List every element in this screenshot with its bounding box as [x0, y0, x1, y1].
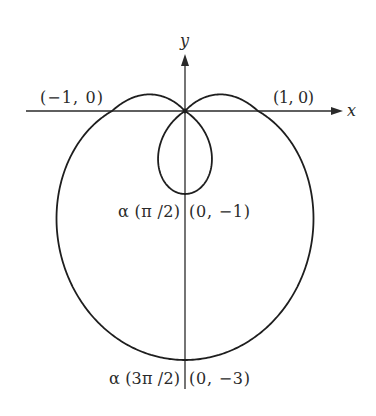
point-label-1-0: (1, 0) [273, 88, 314, 107]
point-label-0-neg1: (0, −1) [189, 202, 250, 221]
point-label-neg1-0: (−1, 0) [40, 88, 103, 107]
x-axis-label: x [347, 101, 356, 120]
y-axis-arrowhead [181, 54, 189, 66]
origin-point [183, 109, 188, 114]
param-label-3pi-over-2: α (3π /2) [109, 369, 180, 388]
param-label-pi-over-2: α (π /2) [118, 202, 180, 221]
point-label-0-neg3: (0, −3) [189, 369, 250, 388]
y-axis-label: y [179, 31, 190, 50]
limacon-figure: x y (−1, 0) (1, 0) α (π /2) (0, −1) α (3… [0, 0, 376, 416]
x-axis-arrowhead [331, 107, 343, 115]
